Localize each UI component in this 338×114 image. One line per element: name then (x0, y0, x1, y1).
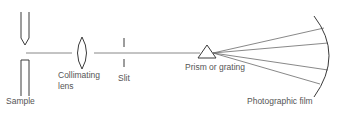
spectrometer-diagram: Sample Collimating lens Slit Prism or gr… (0, 0, 338, 114)
collimating-lens-label-line2: lens (58, 81, 74, 91)
collimating-lens (78, 37, 87, 69)
sample-electrode-upper (21, 12, 29, 45)
slit-label: Slit (118, 73, 130, 83)
collimating-lens-label-line1: Collimating (58, 70, 100, 80)
prism-label: Prism or grating (185, 62, 245, 72)
sample-label: Sample (6, 96, 35, 106)
dispersed-rays (213, 28, 328, 84)
photographic-film-label: Photographic film (247, 96, 313, 106)
photographic-film (314, 16, 329, 97)
prism-or-grating (198, 45, 216, 58)
sample-electrode-lower (21, 60, 29, 96)
